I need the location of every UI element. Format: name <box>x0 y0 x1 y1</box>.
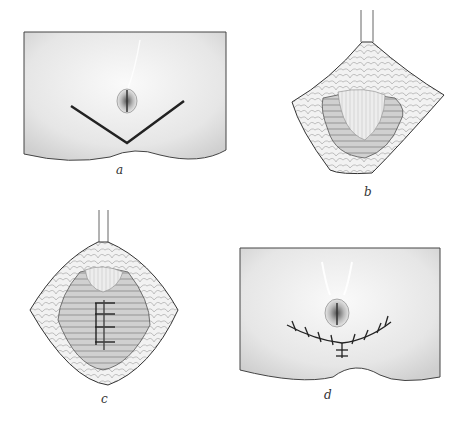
panel-label-a: a <box>116 163 123 177</box>
panel-c <box>30 210 178 385</box>
panel-d <box>240 248 440 381</box>
panel-b <box>292 10 444 174</box>
panel-label-c: c <box>101 392 108 406</box>
panel-label-d: d <box>324 388 332 402</box>
panel-label-b: b <box>364 185 372 199</box>
panel-a <box>24 32 226 160</box>
figure-canvas <box>0 0 462 422</box>
